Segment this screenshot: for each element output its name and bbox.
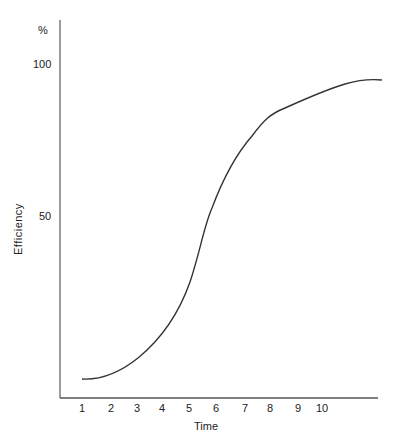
- x-tick-4: 4: [159, 402, 165, 414]
- x-tick-8: 8: [267, 402, 273, 414]
- x-tick-10: 10: [316, 402, 328, 414]
- x-tick-2: 2: [108, 402, 114, 414]
- x-tick-6: 6: [213, 402, 219, 414]
- x-tick-3: 3: [134, 402, 140, 414]
- y-tick-50: 50: [39, 210, 51, 222]
- x-tick-7: 7: [242, 402, 248, 414]
- y-tick-100: 100: [33, 58, 51, 70]
- x-tick-5: 5: [186, 402, 192, 414]
- efficiency-curve: [82, 79, 382, 379]
- x-axis-title: Time: [194, 420, 218, 432]
- y-unit-label: %: [38, 24, 48, 36]
- x-tick-9: 9: [295, 402, 301, 414]
- x-tick-1: 1: [79, 402, 85, 414]
- chart-canvas: [0, 0, 399, 446]
- y-axis-title: Efficiency: [12, 203, 24, 255]
